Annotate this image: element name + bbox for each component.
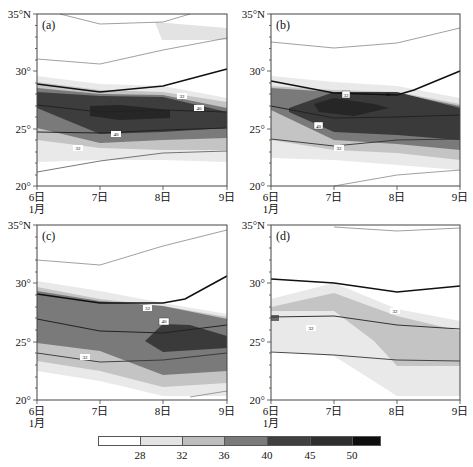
- x-tick-label: 8日: [151, 406, 175, 417]
- colorbar: [98, 436, 381, 446]
- x-tick-label: 7日: [322, 406, 346, 417]
- panel-d-plot: 32 32: [234, 211, 473, 426]
- panel-b: 32 32 40 32 (b) 35°N 30° 25° 20° 6日 1月 7…: [234, 0, 473, 215]
- x-tick-label: 6日: [259, 406, 283, 417]
- colorbar-segment: [268, 437, 311, 445]
- contour-label: 32: [337, 146, 343, 151]
- contour-label: 32: [145, 306, 151, 311]
- x-sub-label: 1月: [259, 418, 283, 429]
- x-tick-label: 8日: [385, 406, 409, 417]
- y-tick-label: 20°: [231, 181, 265, 192]
- colorbar-label: 40: [255, 449, 279, 461]
- colorbar-segment: [353, 437, 380, 445]
- panel-a: 32 40 40 32 (a) 35°N 30° 25° 20° 6日 1月 7…: [0, 0, 236, 215]
- y-tick-label: 35°N: [0, 9, 31, 20]
- panel-label: (b): [276, 18, 290, 33]
- contour-label: 40: [197, 106, 203, 111]
- y-tick-label: 20°: [0, 395, 31, 406]
- x-tick-label: 7日: [88, 406, 112, 417]
- colorbar-segment: [141, 437, 183, 445]
- colorbar-label: 28: [128, 449, 152, 461]
- y-tick-label: 35°N: [231, 220, 265, 231]
- y-tick-label: 30°: [0, 66, 31, 77]
- contour-label: 40: [316, 124, 322, 129]
- colorbar-label: 36: [212, 449, 236, 461]
- x-tick-label: 7日: [322, 192, 346, 203]
- contour-label: 40: [114, 132, 120, 137]
- y-tick-label: 35°N: [231, 9, 265, 20]
- x-tick-label: 7日: [88, 192, 112, 203]
- contour-label: 32: [83, 355, 89, 360]
- x-tick-label: 9日: [448, 192, 472, 203]
- contour-label: 32: [180, 94, 186, 99]
- x-tick-label: 9日: [448, 406, 472, 417]
- x-tick-label: 6日: [259, 192, 283, 203]
- panel-b-plot: 32 32 40 32: [234, 0, 473, 215]
- contour-label: 32: [76, 146, 82, 151]
- y-tick-label: 35°N: [0, 220, 31, 231]
- contour-label: 32: [344, 93, 350, 98]
- y-tick-label: 25°: [0, 124, 31, 135]
- contour-label: 32: [393, 309, 399, 314]
- y-tick-label: 20°: [0, 181, 31, 192]
- x-sub-label: 1月: [25, 418, 49, 429]
- colorbar-label: 32: [170, 449, 194, 461]
- colorbar-segment: [99, 437, 141, 445]
- colorbar-segment: [183, 437, 225, 445]
- x-tick-label: 6日: [25, 192, 49, 203]
- x-tick-label: 6日: [25, 406, 49, 417]
- contour-label: 32: [386, 92, 392, 97]
- panel-label: (d): [276, 229, 290, 244]
- panel-d: 32 32 (d) 35°N 30° 25° 20° 6日 1月 7日 8日 9…: [234, 211, 473, 426]
- panel-a-plot: 32 40 40 32: [0, 0, 236, 215]
- y-tick-label: 30°: [0, 278, 31, 289]
- y-tick-label: 25°: [0, 337, 31, 348]
- x-tick-label: 8日: [151, 192, 175, 203]
- x-tick-label: 8日: [385, 192, 409, 203]
- colorbar-label: 50: [340, 449, 364, 461]
- panel-label: (c): [42, 229, 55, 244]
- colorbar-label: 45: [298, 449, 322, 461]
- panel-c: 32 40 32 (c) 35°N 30° 25° 20° 6日 1月 7日 8…: [0, 211, 236, 426]
- y-tick-label: 25°: [231, 124, 265, 135]
- panel-label: (a): [42, 18, 55, 33]
- contour-label: 32: [309, 326, 315, 331]
- contour-label: 40: [162, 319, 168, 324]
- y-tick-label: 30°: [231, 278, 265, 289]
- colorbar-segment: [311, 437, 353, 445]
- y-tick-label: 30°: [231, 66, 265, 77]
- panel-c-plot: 32 40 32: [0, 211, 236, 426]
- colorbar-segment: [225, 437, 268, 445]
- y-tick-label: 25°: [231, 337, 265, 348]
- y-tick-label: 20°: [231, 395, 265, 406]
